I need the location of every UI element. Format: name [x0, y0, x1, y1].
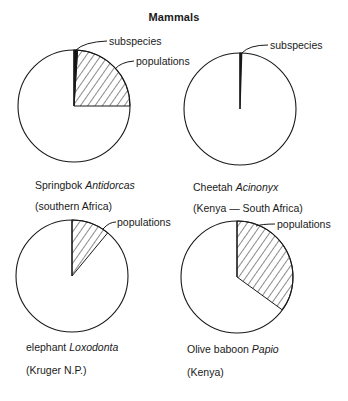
baboon-common-name: Olive baboon: [187, 343, 252, 355]
elephant-genus: Loxodonta: [69, 341, 118, 353]
baboon-caption: Olive baboon Papio: [187, 343, 279, 355]
springbok-pie: [18, 50, 130, 162]
elephant-caption: elephant Loxodonta: [26, 341, 118, 353]
elephant-populations-label: populations: [117, 216, 171, 228]
baboon-populations-label: populations: [277, 218, 331, 230]
baboon-pie: [181, 221, 293, 333]
cheetah-subspecies-leader: [242, 45, 268, 53]
springbok-genus: Antidorcas: [85, 179, 135, 191]
springbok-subspecies-leader: [76, 41, 107, 50]
springbok-populations-leader: [115, 61, 134, 69]
elephant-populations-leader: [103, 222, 116, 229]
cheetah-subspecies-label: subspecies: [270, 39, 323, 51]
baboon-populations-leader: [256, 224, 275, 226]
elephant-pie: [16, 220, 128, 332]
springbok-populations-label: populations: [136, 55, 190, 67]
elephant-region: (Kruger N.P.): [26, 364, 87, 376]
cheetah-genus: Acinonyx: [236, 181, 279, 193]
cheetah-caption: Cheetah Acinonyx: [193, 181, 278, 193]
baboon-genus: Papio: [252, 343, 279, 355]
cheetah-pie: [184, 53, 296, 165]
baboon-region: (Kenya): [187, 366, 224, 378]
cheetah-common-name: Cheetah: [193, 181, 236, 193]
springbok-caption: Springbok Antidorcas: [35, 179, 135, 191]
cheetah-region: (Kenya — South Africa): [193, 202, 303, 214]
elephant-common-name: elephant: [26, 341, 69, 353]
springbok-common-name: Springbok: [35, 179, 85, 191]
baboon-populations-slice: [237, 221, 293, 310]
springbok-subspecies-label: subspecies: [109, 35, 162, 47]
springbok-populations-slice: [74, 50, 130, 106]
springbok-region: (southern Africa): [35, 200, 112, 212]
